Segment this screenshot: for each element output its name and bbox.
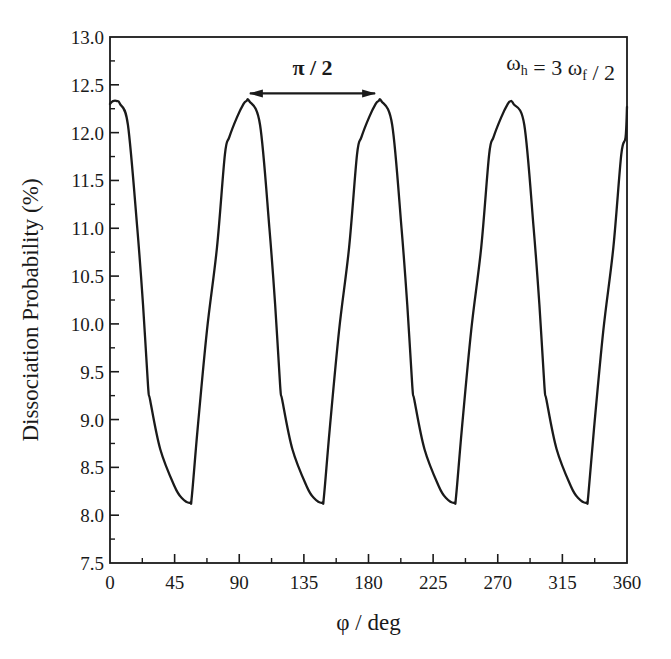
y-tick-label: 8.0: [80, 505, 104, 526]
y-tick-label: 9.0: [80, 410, 104, 431]
x-axis-ticks: [142, 554, 594, 563]
x-tick-label: 315: [548, 572, 577, 593]
annotation-text-part: / 2: [587, 60, 615, 85]
y-tick-label: 11.0: [71, 218, 104, 239]
x-tick-label: 45: [165, 572, 184, 593]
y-tick-label: 12.0: [71, 123, 104, 144]
x-tick-label: 180: [354, 572, 383, 593]
x-tick-label: 360: [613, 572, 642, 593]
x-tick-label: 135: [290, 572, 319, 593]
annotation-text-part: = 3: [528, 55, 568, 80]
annotation-text-part: ω: [506, 50, 520, 75]
data-line-dissociation-probability: [110, 99, 627, 504]
annotation-text-part: ω: [568, 55, 582, 80]
x-tick-label: 270: [484, 572, 513, 593]
y-tick-label: 8.5: [80, 457, 104, 478]
chart-svg: 04590135180225270315360 7.58.08.59.09.51…: [0, 0, 671, 659]
x-axis-title: φ / deg: [336, 610, 401, 635]
x-tick-label: 0: [105, 572, 115, 593]
y-tick-label: 9.5: [80, 362, 104, 383]
y-tick-label: 11.5: [71, 170, 104, 191]
x-tick-label: 225: [419, 572, 448, 593]
x-tick-label: 90: [230, 572, 249, 593]
y-tick-label: 7.5: [80, 553, 104, 574]
annotation-subscript: h: [521, 63, 528, 78]
period-annotation-label: π / 2: [292, 55, 332, 80]
y-axis-ticks: [110, 61, 119, 539]
y-tick-label: 13.0: [71, 27, 104, 48]
y-tick-label: 10.0: [71, 314, 104, 335]
frequency-ratio-annotation: ωh = 3 ωf / 2: [506, 50, 615, 85]
y-axis-tick-labels: 7.58.08.59.09.510.010.511.011.512.012.51…: [71, 27, 104, 574]
x-axis-tick-labels: 04590135180225270315360: [105, 572, 641, 593]
y-tick-label: 12.5: [71, 75, 104, 96]
y-tick-label: 10.5: [71, 266, 104, 287]
y-axis-title: Dissociation Probability (%): [18, 178, 43, 441]
